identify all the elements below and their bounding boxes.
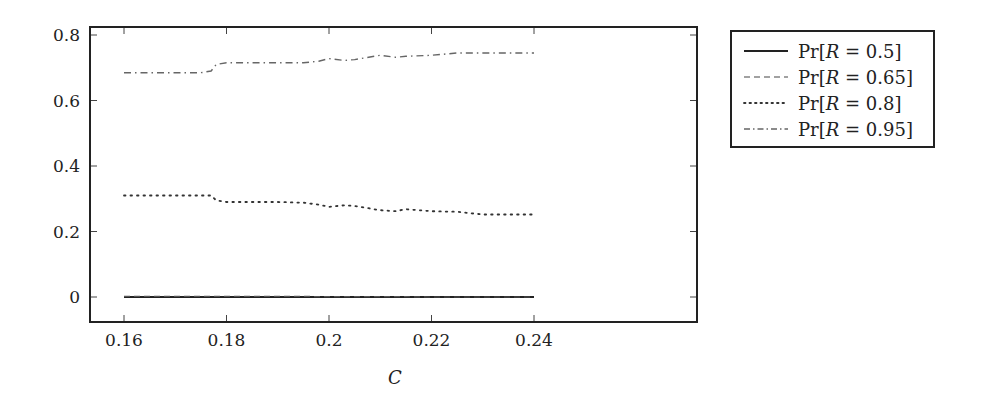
data-lines xyxy=(124,53,534,297)
axis-ticks xyxy=(90,27,697,322)
dotted-line-icon xyxy=(742,98,790,108)
legend-label: Pr[R = 0.8] xyxy=(798,93,902,114)
x-tick-label: 0.2 xyxy=(315,330,342,350)
solid-line-icon xyxy=(742,46,790,56)
tick-labels: 0.160.180.20.220.2400.20.40.60.8 xyxy=(53,25,553,350)
legend-label: Pr[R = 0.95] xyxy=(798,119,913,140)
legend-entry-r065: Pr[R = 0.65] xyxy=(742,64,925,90)
legend: Pr[R = 0.5] Pr[R = 0.65] Pr[R = 0.8] Pr[… xyxy=(730,30,935,148)
dash-dot-line-icon xyxy=(742,124,790,134)
y-tick-label: 0.2 xyxy=(53,222,80,242)
y-tick-label: 0.8 xyxy=(53,25,80,45)
x-axis-label: C xyxy=(388,367,402,388)
x-tick-label: 0.16 xyxy=(105,330,143,350)
legend-label: Pr[R = 0.5] xyxy=(798,41,902,62)
x-tick-label: 0.18 xyxy=(208,330,246,350)
series-line xyxy=(124,196,534,215)
y-tick-label: 0 xyxy=(69,287,80,307)
y-tick-label: 0.6 xyxy=(53,91,80,111)
legend-entry-r05: Pr[R = 0.5] xyxy=(742,38,925,64)
plot-frame xyxy=(90,27,697,322)
legend-entry-r08: Pr[R = 0.8] xyxy=(742,90,925,116)
legend-entry-r095: Pr[R = 0.95] xyxy=(742,116,925,142)
dashed-line-icon xyxy=(742,72,790,82)
series-line xyxy=(124,53,534,73)
y-tick-label: 0.4 xyxy=(53,156,80,176)
x-tick-label: 0.24 xyxy=(515,330,553,350)
x-tick-label: 0.22 xyxy=(413,330,451,350)
legend-label: Pr[R = 0.65] xyxy=(798,67,913,88)
